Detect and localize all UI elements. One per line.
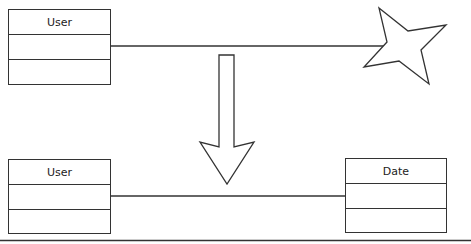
class-attributes [9, 185, 110, 210]
arrow-down-icon [200, 55, 254, 184]
class-box-user-bottom[interactable]: User [8, 159, 111, 234]
class-box-date[interactable]: Date [345, 158, 447, 233]
class-box-user-top[interactable]: User [8, 9, 111, 85]
class-name: User [9, 160, 110, 185]
class-name: User [9, 10, 110, 35]
diagram-canvas: User User Date [0, 0, 471, 244]
class-methods [9, 60, 110, 85]
class-methods [346, 209, 446, 234]
class-name: Date [346, 159, 446, 184]
class-attributes [9, 35, 110, 60]
class-attributes [346, 184, 446, 209]
class-methods [9, 210, 110, 235]
